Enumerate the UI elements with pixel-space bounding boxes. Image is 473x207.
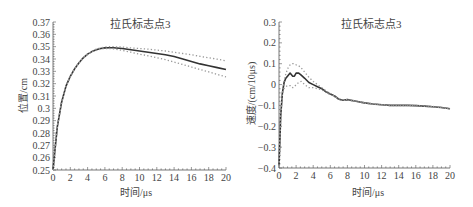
mean-line	[279, 73, 450, 166]
y-tick-label: −0.4	[258, 163, 276, 174]
bound-line	[279, 81, 450, 165]
y-tick-label: −0.2	[258, 121, 276, 132]
x-tick-label: 10	[135, 172, 145, 183]
x-tick-label: 18	[204, 172, 214, 183]
x-tick-label: 6	[102, 172, 107, 183]
y-tick-label: −0.3	[258, 142, 276, 153]
chart-title: 拉氏标志点3	[110, 15, 171, 31]
x-tick-label: 18	[428, 170, 438, 181]
y-tick-label: −0.1	[258, 100, 276, 111]
position-plot: 024681012141618200.250.260.270.280.290.3…	[0, 0, 240, 207]
y-tick-label: 0.37	[33, 17, 51, 28]
y-tick-label: 0	[271, 79, 276, 90]
x-tick-label: 8	[120, 172, 125, 183]
x-tick-label: 20	[221, 172, 231, 183]
x-tick-label: 8	[345, 170, 350, 181]
x-tick-label: 20	[445, 170, 455, 181]
mean-line	[53, 48, 226, 170]
y-tick-label: 0.25	[33, 165, 51, 176]
x-axis-label: 时间/μs	[120, 184, 152, 199]
x-tick-label: 10	[360, 170, 370, 181]
bound-line	[53, 49, 226, 171]
y-tick-label: 0.32	[33, 78, 51, 89]
y-tick-label: 0.31	[33, 91, 51, 102]
x-tick-label: 14	[169, 172, 179, 183]
x-tick-label: 4	[85, 172, 90, 183]
x-tick-label: 6	[328, 170, 333, 181]
x-tick-label: 0	[51, 172, 56, 183]
y-tick-label: 0.36	[33, 29, 51, 40]
x-tick-label: 2	[68, 172, 73, 183]
y-tick-label: 0.33	[33, 66, 51, 77]
y-tick-label: 0.2	[264, 37, 277, 48]
velocity-chart: 02468101214161820−0.4−0.3−0.2−0.100.10.2…	[240, 0, 473, 207]
x-tick-label: 14	[394, 170, 404, 181]
x-tick-label: 16	[411, 170, 421, 181]
x-tick-label: 16	[186, 172, 196, 183]
y-axis-label: 位置/cm	[15, 71, 30, 121]
chart-title: 拉氏标志点3	[341, 15, 402, 31]
y-tick-label: 0.29	[33, 115, 51, 126]
y-tick-label: 0.26	[33, 152, 51, 163]
y-tick-label: 0.27	[33, 140, 51, 151]
x-tick-label: 0	[277, 170, 282, 181]
y-tick-label: 0.34	[33, 54, 51, 65]
x-tick-label: 12	[377, 170, 387, 181]
bound-line	[53, 47, 226, 170]
y-tick-label: 0.28	[33, 128, 51, 139]
x-axis-label: 时间/μs	[352, 184, 384, 199]
y-axis-label: 速度/(cm/10μs)	[243, 54, 258, 134]
y-tick-label: 0.3	[264, 17, 277, 28]
y-tick-label: 0.1	[264, 58, 277, 69]
x-tick-label: 4	[311, 170, 316, 181]
y-tick-label: 0.3	[38, 103, 51, 114]
position-chart: 024681012141618200.250.260.270.280.290.3…	[0, 0, 240, 207]
velocity-plot: 02468101214161820−0.4−0.3−0.2−0.100.10.2…	[240, 0, 473, 207]
y-tick-label: 0.35	[33, 41, 51, 52]
x-tick-label: 12	[152, 172, 162, 183]
x-tick-label: 2	[294, 170, 299, 181]
